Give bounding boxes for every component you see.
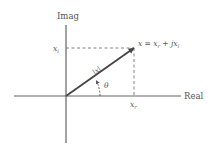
equation-i-sub: i bbox=[178, 43, 180, 49]
angle-arc bbox=[97, 81, 101, 96]
complex-plane-diagram: Imag Real xi xr x = xr + jxi |x| θ bbox=[0, 0, 213, 150]
imag-tick-label: xi bbox=[53, 44, 59, 54]
equation-plus-jx: + jx bbox=[160, 39, 178, 48]
real-tick-label: xr bbox=[130, 100, 137, 110]
point-equation: x = xr + jxi bbox=[138, 39, 180, 49]
real-axis-label: Real bbox=[184, 91, 203, 101]
angle-label: θ bbox=[104, 81, 109, 90]
imag-axis-label: Imag bbox=[57, 11, 79, 21]
magnitude-label: |x| bbox=[91, 65, 103, 77]
equation-lhs: x = x bbox=[138, 39, 158, 48]
real-tick-sub: r bbox=[134, 104, 137, 110]
imag-tick-sub: i bbox=[57, 48, 59, 54]
